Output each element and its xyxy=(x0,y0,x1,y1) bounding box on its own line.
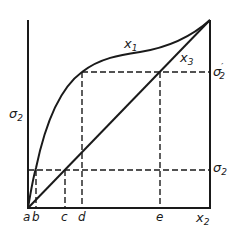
tick-a: a xyxy=(23,210,30,224)
phase-diagram: x1 x3 σ2 σ′2 σ2 a b c d e x2 xyxy=(0,0,239,235)
sigma2-prime-label: σ′2 xyxy=(213,62,225,81)
x3-line xyxy=(28,20,210,208)
sigma2-label: σ2 xyxy=(213,160,227,177)
x-axis-label: x2 xyxy=(195,210,210,227)
x3-label: x3 xyxy=(179,50,194,67)
tick-d: d xyxy=(78,210,86,224)
tick-c: c xyxy=(61,210,68,224)
x1-label: x1 xyxy=(123,36,137,53)
tick-b: b xyxy=(32,210,40,224)
tick-e: e xyxy=(156,210,163,224)
y-axis-label: σ2 xyxy=(9,106,23,123)
